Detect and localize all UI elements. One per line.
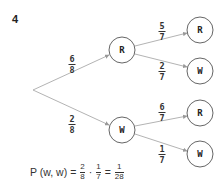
node-wr-label: R bbox=[197, 108, 202, 118]
node-w-label: W bbox=[119, 125, 124, 135]
prob-den: 7 bbox=[159, 114, 164, 122]
node-ww-label: W bbox=[197, 149, 202, 159]
prob-den: 7 bbox=[159, 73, 164, 81]
prob-num: 2 bbox=[69, 115, 74, 123]
prob-num: 5 bbox=[159, 22, 164, 30]
formula-fraction-2: 1 7 bbox=[96, 163, 100, 181]
prob-den: 7 bbox=[159, 33, 164, 41]
prob-den: 7 bbox=[159, 156, 164, 164]
formula-lhs: P (w, w) bbox=[30, 166, 67, 178]
node-rr-label: R bbox=[197, 25, 202, 35]
prob-num: 1 bbox=[159, 145, 164, 153]
equals-sign-2: = bbox=[105, 166, 111, 178]
frac-den: 7 bbox=[96, 173, 100, 181]
prob-root-w: 2 8 bbox=[69, 115, 76, 134]
frac-num: 1 bbox=[96, 163, 100, 171]
probability-tree bbox=[0, 0, 224, 190]
probability-formula: P (w, w) = 2 8 · 1 7 = 1 28 bbox=[30, 163, 125, 181]
prob-root-r: 6 8 bbox=[69, 55, 76, 74]
prob-w-w: 1 7 bbox=[159, 145, 166, 164]
frac-den: 8 bbox=[80, 173, 84, 181]
node-rw-label: W bbox=[197, 66, 202, 76]
prob-num: 6 bbox=[159, 103, 164, 111]
prob-r-r: 5 7 bbox=[159, 22, 166, 41]
equals-sign: = bbox=[70, 166, 76, 178]
formula-result: 1 28 bbox=[115, 163, 124, 181]
prob-num: 2 bbox=[159, 62, 164, 70]
prob-den: 8 bbox=[69, 66, 74, 74]
frac-num: 2 bbox=[80, 163, 84, 171]
node-r-label: R bbox=[119, 45, 124, 55]
formula-fraction-1: 2 8 bbox=[80, 163, 84, 181]
prob-r-w: 2 7 bbox=[159, 62, 166, 81]
frac-den: 28 bbox=[115, 173, 124, 181]
frac-num: 1 bbox=[117, 163, 121, 171]
multiply-dot: · bbox=[89, 166, 93, 178]
prob-w-r: 6 7 bbox=[159, 103, 166, 122]
prob-num: 6 bbox=[69, 55, 74, 63]
prob-den: 8 bbox=[69, 126, 74, 134]
